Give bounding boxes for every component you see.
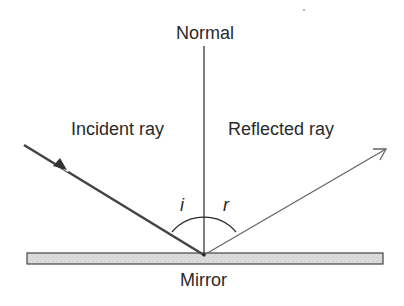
angle-reflection-label: r [223,196,229,214]
reflected-ray [204,149,386,255]
mirror-label: Mirror [180,271,227,289]
speck-mark [303,9,305,11]
reflection-diagram: Normal Incident ray Reflected ray i r Mi… [0,0,404,306]
incident-ray-label: Incident ray [71,120,164,138]
diagram-canvas [0,0,404,306]
reflection-point [202,253,205,256]
reflected-ray-label: Reflected ray [228,120,334,138]
incident-ray [24,145,204,255]
normal-label: Normal [176,24,234,42]
angle-incidence-label: i [180,196,184,214]
